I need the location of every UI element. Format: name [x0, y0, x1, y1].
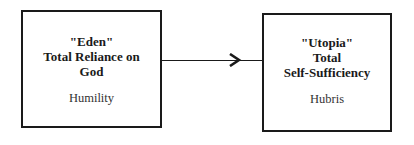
eden-title: "Eden" Total Reliance on God — [23, 34, 160, 79]
utopia-box: "Utopia" Total Self-Sufficiency Hubris — [262, 13, 392, 132]
utopia-subtitle: Hubris — [264, 92, 390, 107]
utopia-title-line: Self-Sufficiency — [264, 65, 390, 80]
eden-title-line: God — [23, 64, 160, 79]
utopia-title: "Utopia" Total Self-Sufficiency — [264, 35, 390, 80]
eden-title-line: Total Reliance on — [23, 49, 160, 64]
utopia-title-line: Total — [264, 50, 390, 65]
arrow-right-icon — [228, 53, 242, 67]
eden-box: "Eden" Total Reliance on God Humility — [21, 10, 162, 128]
connector-line — [162, 60, 262, 61]
utopia-title-line: "Utopia" — [264, 35, 390, 50]
eden-subtitle: Humility — [23, 91, 160, 106]
eden-title-line: "Eden" — [23, 34, 160, 49]
